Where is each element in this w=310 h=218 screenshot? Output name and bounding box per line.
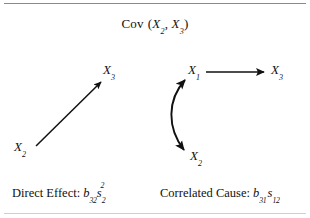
arrow-x2-to-x3 [36,82,101,146]
node-label-x2-left: X2 [14,139,26,155]
term-s-subscript: 2 [102,196,106,205]
top-rule [4,3,306,4]
arrow-x1-x2-covariance [171,80,185,150]
caption-right-label: Correlated Cause: [160,186,250,200]
figure-title: Cov(X2, X3) [0,16,310,32]
caption-correlated-cause: Correlated Cause:b31s12 [160,186,280,201]
title-var1-subscript: 2 [160,27,164,36]
title-var2: X [172,16,180,31]
term-b31-subscript: 31 [259,196,266,205]
title-function-name: Cov [121,16,143,31]
node-label-x3-right: X3 [271,62,283,78]
term-b-subscript: 32 [89,196,96,205]
node-label-x2-right: X2 [190,148,202,164]
node-label-x1-right: X1 [188,62,200,78]
bottom-rule [4,213,306,214]
title-var2-subscript: 3 [180,27,184,36]
figure-canvas: Cov(X2, X3) X2 X3 X1 X2 X3 Direct Effect… [0,0,310,218]
caption-left-formula: b32s22 [80,186,104,200]
node-label-x3-left: X3 [103,62,115,78]
title-comma: , [165,16,172,31]
caption-left-label: Direct Effect: [12,186,80,200]
caption-right-formula: b31s12 [250,186,280,200]
title-close-paren: ) [184,16,189,31]
caption-direct-effect: Direct Effect:b32s22 [12,186,104,201]
term-s12-subscript: 12 [272,196,279,205]
term-s-superscript: 2 [101,181,105,190]
